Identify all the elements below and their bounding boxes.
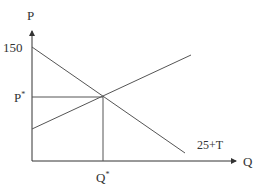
demand-line — [32, 47, 185, 153]
supply-curve-label: 25+T — [197, 138, 224, 152]
price-equilibrium-star: * — [21, 90, 25, 99]
price-equilibrium-label: P* — [14, 90, 25, 105]
quantity-equilibrium-label: Q* — [96, 170, 109, 185]
quantity-equilibrium-star: * — [105, 170, 109, 179]
y-axis-label: P — [27, 8, 34, 23]
price-equilibrium-letter: P — [14, 90, 21, 105]
intercept-label: 150 — [3, 40, 23, 55]
supply-line — [32, 55, 191, 129]
x-axis-label: Q — [243, 154, 253, 169]
supply-demand-diagram: P Q 150 P* Q* 25+T — [0, 0, 257, 190]
